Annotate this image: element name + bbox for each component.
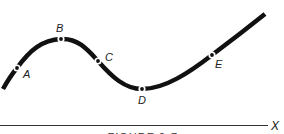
point-label-e: E [215, 58, 223, 70]
point-marker-b [57, 35, 64, 42]
point-marker-d [138, 85, 145, 92]
point-label-c: C [105, 51, 113, 63]
point-label-d: D [138, 94, 146, 106]
figure-caption: FIGURE 2-7 [107, 131, 178, 134]
function-curve [3, 14, 265, 89]
point-marker-c [94, 57, 101, 64]
figure-diagram: A B C D E X FIGURE 2-7 [0, 0, 284, 134]
point-label-b: B [56, 22, 63, 34]
point-label-a: A [22, 68, 30, 80]
x-axis-label: X [270, 119, 280, 133]
point-marker-a [13, 64, 20, 71]
